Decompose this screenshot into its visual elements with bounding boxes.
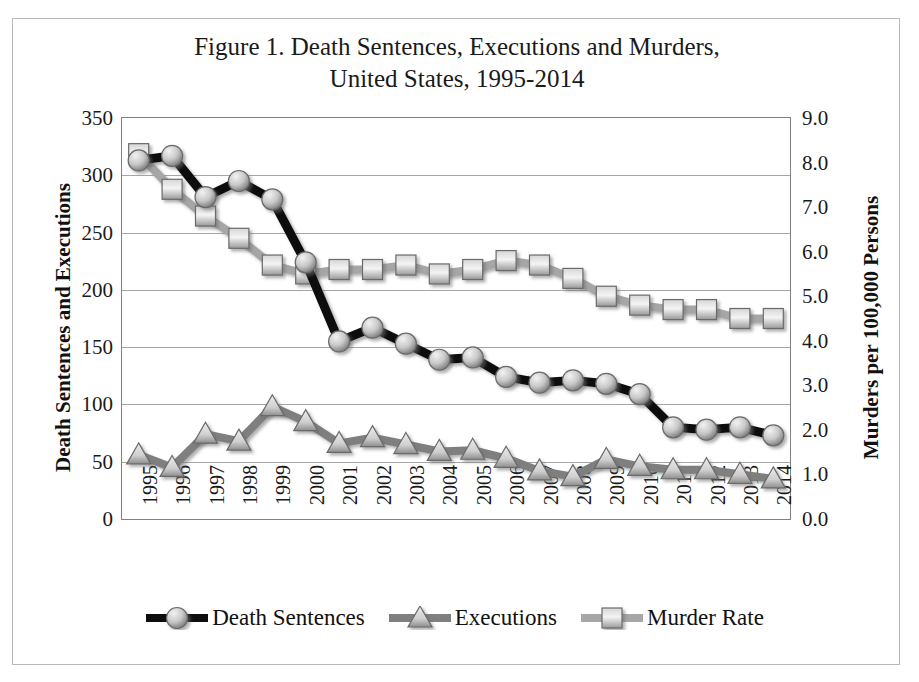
square-marker (463, 259, 483, 279)
y-axis-right-tick-label: 3.0 (802, 375, 828, 396)
y-axis-right-tick-label: 8.0 (802, 153, 828, 174)
y-axis-right-tick-label: 5.0 (802, 286, 828, 307)
triangle-marker (389, 607, 451, 629)
circle-marker (696, 419, 717, 440)
square-marker (697, 300, 717, 320)
circle-marker (429, 349, 450, 370)
y-axis-left-tick-label: 250 (82, 223, 114, 244)
y-axis-right-tick-label: 1.0 (802, 464, 828, 485)
circle-marker (596, 373, 617, 394)
series-death-sentences (128, 145, 784, 446)
title-line-2: United States, 1995-2014 (13, 63, 901, 95)
square-marker (329, 259, 349, 279)
square-marker (663, 300, 683, 320)
circle-marker (329, 331, 350, 352)
series-line (139, 156, 774, 436)
circle-marker (629, 384, 650, 405)
circle-marker (228, 171, 249, 192)
triangle-marker (408, 606, 432, 627)
y-axis-right-tick-label: 2.0 (802, 420, 828, 441)
triangle-marker (127, 443, 151, 464)
legend-label: Death Sentences (212, 605, 365, 631)
legend-marker (389, 606, 451, 630)
square-marker (162, 179, 182, 199)
title-line-1: Figure 1. Death Sentences, Executions an… (13, 31, 901, 63)
y-axis-right-tick-label: 0.0 (802, 509, 828, 530)
series-plot (122, 118, 790, 519)
square-marker (602, 608, 622, 628)
chart-legend: Death SentencesExecutionsMurder Rate (121, 605, 789, 631)
circle-marker (529, 372, 550, 393)
circle-marker (496, 366, 517, 387)
circle-marker (663, 417, 684, 438)
legend-item[interactable]: Murder Rate (581, 605, 764, 631)
circle-marker (195, 187, 216, 208)
square-marker (630, 295, 650, 315)
circle-marker (146, 607, 208, 629)
triangle-marker (260, 395, 284, 416)
circle-marker (262, 189, 283, 210)
page-title: Figure 1. Death Sentences, Executions an… (13, 31, 901, 95)
legend-label: Murder Rate (647, 605, 764, 631)
circle-marker (362, 317, 383, 338)
legend-marker (146, 606, 208, 630)
y-axis-left-tick-label: 100 (82, 394, 114, 415)
y-axis-left-tick-label: 200 (82, 280, 114, 301)
y-axis-left-tick-label: 50 (92, 452, 113, 473)
y-axis-right-tick-label: 4.0 (802, 331, 828, 352)
square-marker (530, 255, 550, 275)
square-marker (229, 228, 249, 248)
circle-marker (162, 145, 183, 166)
legend-item[interactable]: Death Sentences (146, 605, 365, 631)
legend-label: Executions (455, 605, 557, 631)
y-axis-left-tick-label: 0 (103, 509, 114, 530)
circle-marker (763, 425, 784, 446)
y-axis-right-tick-label: 7.0 (802, 197, 828, 218)
figure-frame: Figure 1. Death Sentences, Executions an… (12, 18, 900, 665)
circle-marker (167, 608, 188, 629)
y-axis-left-title: Death Sentences and Executions (51, 128, 76, 528)
circle-marker (729, 417, 750, 438)
circle-marker (562, 370, 583, 391)
series-executions (127, 395, 786, 488)
square-marker (429, 264, 449, 284)
y-axis-left-tick-label: 150 (82, 337, 114, 358)
square-marker (596, 286, 616, 306)
series-murder-rate (129, 144, 784, 329)
y-axis-right-tick-label: 9.0 (802, 108, 828, 129)
square-marker (563, 268, 583, 288)
square-marker (763, 309, 783, 329)
legend-marker (581, 606, 643, 630)
square-marker (363, 259, 383, 279)
square-marker (730, 309, 750, 329)
square-marker (396, 255, 416, 275)
circle-marker (395, 333, 416, 354)
circle-marker (295, 252, 316, 273)
circle-marker (128, 150, 149, 171)
circle-marker (462, 347, 483, 368)
y-axis-right-tick-label: 6.0 (802, 242, 828, 263)
y-axis-left-tick-label: 350 (82, 108, 114, 129)
legend-item[interactable]: Executions (389, 605, 557, 631)
square-marker (496, 251, 516, 271)
square-marker (196, 206, 216, 226)
square-marker (262, 255, 282, 275)
plot-area: 050100150200250300350 0.01.02.03.04.05.0… (121, 117, 791, 520)
y-axis-right-title: Murders per 100,000 Persons (859, 128, 884, 528)
square-marker (581, 607, 643, 629)
y-axis-left-tick-label: 300 (82, 165, 114, 186)
